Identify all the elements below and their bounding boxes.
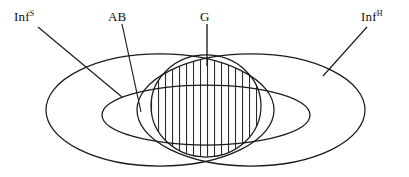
inf-s-base-text: Inf [14, 9, 30, 24]
g-set-label: G [200, 10, 210, 23]
leader-line-inf-h [323, 27, 367, 76]
ab-set-label: AB [108, 10, 126, 23]
ab-base-text: AB [108, 9, 126, 24]
g-base-text: G [200, 9, 210, 24]
leader-line-ab [122, 24, 141, 112]
inf-h-superscript-text: H [377, 9, 383, 18]
venn-diagram-figure: InfS AB G InfH [0, 0, 409, 177]
inf-s-superscript-text: S [30, 9, 35, 18]
inf-h-base-text: Inf [361, 9, 377, 24]
soft-information-set-label: InfS [14, 10, 34, 23]
hard-information-set-label: InfH [361, 10, 383, 23]
venn-diagram-canvas [0, 0, 409, 177]
leader-line-inf-s [38, 27, 122, 97]
